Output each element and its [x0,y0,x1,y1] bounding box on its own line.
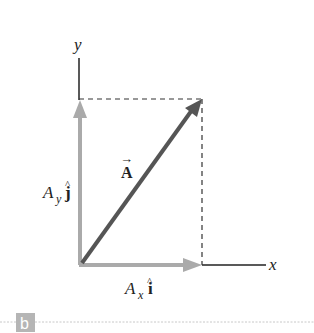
y-unit-hat: ^ [65,178,71,190]
y-component-arrow [73,100,87,265]
y-component-label: A y j ^ [42,178,71,206]
panel-label: b [20,315,29,332]
x-unit-hat: ^ [147,275,153,287]
x-component-symbol: A [124,279,136,298]
y-component-symbol: A [42,183,54,202]
vector-diagram: y x → A A y j ^ A x i ^ b [0,0,314,333]
x-axis-label: x [268,255,277,274]
vector-name: A [121,164,133,181]
x-component-label: A x i ^ [124,275,153,302]
vector-a-label: → A [120,151,133,181]
x-component-arrow [79,258,202,272]
y-component-subscript: y [55,192,62,206]
panel-badge: b [16,313,35,332]
y-axis-label: y [72,35,82,54]
vector-a-arrow [82,99,202,263]
x-component-subscript: x [137,288,144,302]
